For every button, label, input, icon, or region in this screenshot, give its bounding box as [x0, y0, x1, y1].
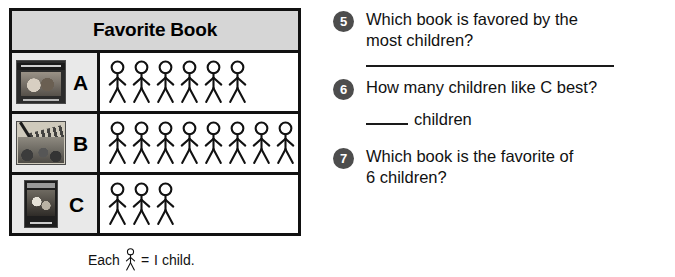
cover-author-line: [23, 99, 59, 101]
pictograph-panel: Favorite Book A: [9, 8, 301, 236]
legend-value: I child.: [154, 252, 194, 268]
cover-photo: [21, 72, 61, 96]
pictograph-title: Favorite Book: [12, 11, 298, 53]
row-letter-b: B: [66, 133, 95, 154]
question-5-line-2: most children?: [366, 30, 669, 51]
answer-unit-6: children: [414, 109, 472, 130]
book-cover-a: [16, 60, 66, 104]
question-number-badge-6: 6: [333, 79, 354, 100]
stick-figure-icon: [155, 182, 176, 226]
stick-figure-icon: [131, 60, 152, 104]
stick-figure-icon: [179, 60, 200, 104]
stick-figure-icon: [107, 121, 128, 165]
pictograph-legend: Each = I child.: [88, 248, 195, 271]
stick-figure-icon: [251, 121, 272, 165]
cover-top-bar: [27, 183, 55, 188]
question-7-line-1: Which book is the favorite of: [366, 146, 669, 167]
stick-figure-icon: [131, 121, 152, 165]
pictograph-table: Favorite Book A: [9, 8, 301, 236]
question-5: 5 Which book is favored by the most chil…: [333, 9, 669, 67]
question-7: 7 Which book is the favorite of 6 childr…: [333, 146, 669, 188]
row-label-cell-b: B: [12, 114, 100, 172]
stick-figure-icon: [155, 60, 176, 104]
stick-figure-icon: [155, 121, 176, 165]
question-5-line-1: Which book is favored by the: [366, 9, 669, 30]
stick-figure-icon: [179, 121, 200, 165]
question-6-line-1: How many children like C best?: [366, 77, 669, 98]
stick-figure-icon: [131, 182, 152, 226]
cover-scene: [18, 137, 64, 163]
stick-figure-icon: [203, 121, 224, 165]
stick-figure-icon: [227, 60, 248, 104]
stick-figure-icon: [125, 248, 136, 271]
cover-art: [27, 190, 55, 216]
row-letter-c: C: [58, 194, 95, 215]
table-row: A: [12, 53, 298, 114]
stick-figure-icon: [203, 60, 224, 104]
row-label-cell-c: C: [12, 175, 100, 233]
question-number-badge-5: 5: [333, 11, 354, 32]
answer-blank-6[interactable]: [366, 109, 408, 125]
legend-prefix: Each: [88, 252, 120, 268]
row-label-cell-a: A: [12, 53, 100, 111]
table-row: C: [12, 175, 298, 233]
stick-figure-icon: [107, 182, 128, 226]
worksheet-page: Favorite Book A: [0, 0, 675, 277]
table-row: B: [12, 114, 298, 175]
book-cover-b: [16, 121, 66, 165]
legend-equals: =: [141, 252, 149, 268]
stick-figure-icon: [227, 121, 248, 165]
row-symbols-c: [100, 175, 298, 233]
stick-figure-icon: [275, 121, 296, 165]
row-symbols-b: [100, 114, 298, 172]
stick-figure-icon: [125, 248, 136, 271]
answer-row-6: children: [366, 109, 669, 130]
row-symbols-a: [100, 53, 298, 111]
stick-figure-icon: [107, 60, 128, 104]
question-6: 6 How many children like C best? childre…: [333, 77, 669, 130]
question-number-badge-7: 7: [333, 148, 354, 169]
questions-panel: 5 Which book is favored by the most chil…: [333, 9, 669, 190]
cover-title-band: [17, 63, 65, 70]
cover-caption-line: [30, 222, 52, 224]
answer-line-5[interactable]: [366, 65, 614, 67]
row-letter-a: A: [66, 72, 95, 93]
book-cover-c: [24, 180, 58, 228]
question-7-line-2: 6 children?: [366, 167, 669, 188]
